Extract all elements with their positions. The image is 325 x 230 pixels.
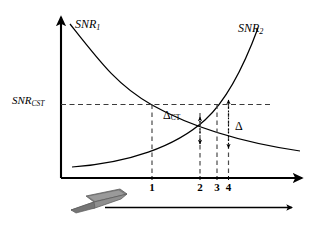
delta-ct-label: ΔCT xyxy=(163,109,180,122)
snr1-curve xyxy=(70,24,300,151)
laptop-icon xyxy=(71,189,127,213)
snr2-curve xyxy=(72,28,258,167)
axis-tick-label-2: 2 xyxy=(193,182,207,193)
snr-cst-label: SNRCST xyxy=(12,95,44,107)
delta-label: Δ xyxy=(235,120,243,132)
snr-threshold-diagram: SNR1 SNR2 SNRCST ΔCT Δ 1 2 3 4 xyxy=(0,0,325,230)
axis-tick-label-4: 4 xyxy=(222,182,236,193)
axis-tick-label-1: 1 xyxy=(145,182,159,193)
snr2-label: SNR2 xyxy=(238,22,263,36)
snr1-label: SNR1 xyxy=(75,18,100,32)
